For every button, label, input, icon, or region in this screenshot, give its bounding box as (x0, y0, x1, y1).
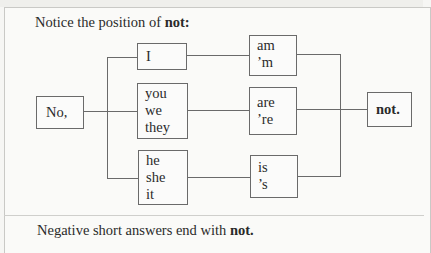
box-subject-i: I (137, 43, 187, 70)
panel-title: Notice the position of not: (35, 14, 190, 31)
verb-line: ’s (258, 176, 297, 193)
connector-right-trunk (340, 54, 341, 177)
verb-line: ’re (257, 111, 296, 128)
connector-i-to-am (186, 55, 249, 56)
title-bold-word: not: (165, 14, 190, 30)
verb-line: are (257, 94, 296, 111)
connector-trunk-to-he (107, 178, 138, 179)
subject-line: you (145, 85, 187, 102)
subject-line: I (146, 48, 186, 65)
connector-you-to-are (187, 110, 249, 111)
footer-text: Negative short answers end with (37, 222, 230, 238)
subject-line: she (146, 169, 187, 186)
box-subject-he-she-it: he she it (138, 150, 188, 205)
connector-are-to-not (296, 109, 367, 110)
connector-am-to-trunk (296, 54, 341, 55)
top-edge (0, 0, 423, 7)
box-not-text: not. (376, 101, 400, 117)
verb-line: am (257, 37, 296, 54)
subject-line: it (146, 186, 187, 203)
connector-left-trunk (107, 57, 108, 179)
footer-bold-word: not. (230, 222, 254, 238)
box-not: not. (367, 92, 412, 127)
verb-line: ’m (257, 54, 296, 71)
subject-line: we (145, 102, 187, 119)
section-divider (4, 215, 424, 216)
connector-he-to-is (187, 177, 250, 178)
box-subject-you-we-they: you we they (137, 83, 188, 139)
verb-line: is (258, 159, 297, 176)
subject-line: he (146, 152, 187, 169)
box-verb-are: are ’re (249, 87, 297, 135)
box-verb-is: is ’s (250, 155, 298, 198)
connector-is-to-trunk (297, 176, 341, 177)
title-text: Notice the position of (35, 14, 165, 30)
box-no-text: No, (46, 104, 67, 120)
subject-line: they (145, 119, 187, 136)
box-verb-am: am ’m (249, 35, 297, 76)
footer-note: Negative short answers end with not. (37, 222, 254, 239)
grammar-panel (4, 7, 431, 253)
connector-trunk-to-i (107, 57, 137, 58)
box-no: No, (36, 96, 84, 129)
connector-no-to-trunk (83, 111, 137, 112)
